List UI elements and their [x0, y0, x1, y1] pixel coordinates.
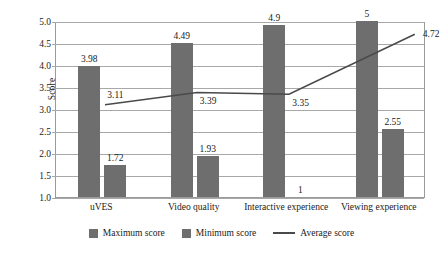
x-axis-category-label: uVES [90, 202, 113, 212]
bar-value-label-minimum: 2.55 [384, 117, 401, 127]
average-score-value-label: 3.35 [292, 98, 309, 108]
bar-minimum-score [104, 165, 126, 197]
legend-item[interactable]: Average score [273, 228, 354, 238]
y-axis-tick-label: 3.0 [39, 105, 51, 115]
y-axis-tick-label: 4.0 [39, 61, 51, 71]
y-axis-tick-mark [52, 198, 56, 199]
y-axis-tick-mark [52, 88, 56, 89]
bar-value-label-maximum: 4.9 [268, 13, 280, 23]
legend-square-swatch-icon [89, 229, 98, 238]
gridline [56, 198, 424, 199]
y-axis-tick-label: 5.0 [39, 17, 51, 27]
y-axis-tick-mark [52, 154, 56, 155]
y-axis-tick-mark [52, 110, 56, 111]
y-axis-tick-mark [52, 66, 56, 67]
bar-minimum-score [197, 156, 219, 197]
y-axis-tick-label: 1.5 [39, 171, 51, 181]
average-score-value-label: 3.11 [107, 90, 123, 100]
legend-item-label: Average score [300, 228, 354, 238]
y-axis-tick-label: 2.5 [39, 127, 51, 137]
bar-value-label-maximum: 4.49 [173, 31, 190, 41]
bar-value-label-minimum: 1.72 [107, 153, 124, 163]
chart-legend: Maximum scoreMinimum scoreAverage score [0, 228, 443, 238]
x-axis-category-label: Viewing experience [341, 202, 417, 212]
legend-square-swatch-icon [182, 229, 191, 238]
y-axis-tick-mark [52, 22, 56, 23]
bar-maximum-score [78, 66, 100, 197]
average-score-value-label: 4.72 [423, 29, 440, 39]
bar-maximum-score [171, 43, 193, 197]
y-axis-tick-mark [52, 176, 56, 177]
y-axis-tick-label: 3.5 [39, 83, 51, 93]
bar-minimum-score [382, 129, 404, 197]
average-score-value-label: 3.39 [200, 96, 217, 106]
x-axis-category-label: Video quality [168, 202, 219, 212]
bar-value-label-minimum: 1.93 [199, 144, 216, 154]
y-axis-tick-mark [52, 132, 56, 133]
bar-value-label-maximum: 3.98 [81, 54, 98, 64]
x-axis-category-label: Interactive experience [244, 202, 328, 212]
bar-value-label-maximum: 5 [364, 9, 369, 19]
plot-area: Score 5.04.54.03.53.02.52.01.51.0 3.981.… [55, 22, 425, 198]
bar-maximum-score [356, 21, 378, 197]
bar-maximum-score [263, 25, 285, 197]
chart-figure: Score 5.04.54.03.53.02.52.01.51.0 3.981.… [0, 0, 443, 260]
legend-item-label: Minimum score [196, 228, 256, 238]
legend-item-label: Maximum score [103, 228, 165, 238]
legend-item[interactable]: Maximum score [89, 228, 165, 238]
y-axis-tick-mark [52, 44, 56, 45]
bar-value-label-minimum: 1 [298, 185, 303, 195]
y-axis-tick-label: 2.0 [39, 149, 51, 159]
legend-line-swatch-icon [273, 232, 295, 234]
y-axis-tick-label: 4.5 [39, 39, 51, 49]
legend-item[interactable]: Minimum score [182, 228, 256, 238]
y-axis-tick-label: 1.0 [39, 193, 51, 203]
